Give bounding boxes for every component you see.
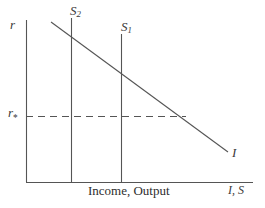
economics-loanable-funds-diagram: r S2 S1 r* I Income, Output I, S [0, 0, 265, 208]
y-axis-label: r [10, 18, 15, 31]
x-axis-unit-label: I, S [228, 184, 244, 196]
saving-curve-s2-label-text: S [70, 3, 77, 18]
saving-curve-s2-label-subscript: 2 [77, 9, 81, 19]
saving-curve-s1-label: S1 [121, 20, 132, 33]
x-axis-title: Income, Output [88, 184, 170, 197]
equilibrium-rate-label-superscript: * [13, 113, 18, 123]
investment-curve-label: I [232, 146, 236, 159]
equilibrium-rate-label: r* [8, 106, 18, 119]
diagram-canvas [0, 0, 265, 208]
saving-curve-s2-label: S2 [70, 4, 81, 17]
saving-curve-s1-label-text: S [121, 19, 128, 34]
investment-curve-line [51, 22, 228, 152]
saving-curve-s1-label-subscript: 1 [128, 25, 132, 35]
